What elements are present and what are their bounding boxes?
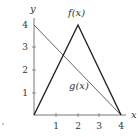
- y-tick-label: 4: [22, 20, 28, 30]
- f-label: f(x): [67, 7, 85, 18]
- y-tick-label: 3: [22, 42, 28, 52]
- x-axis-label: x: [131, 109, 137, 120]
- x-tick-label: 3: [96, 121, 102, 131]
- y-axis-label: y: [29, 3, 36, 14]
- x-tick-label: 1: [53, 121, 59, 131]
- x-tick-label: 4: [118, 121, 124, 131]
- x-tick-label: 2: [75, 121, 81, 131]
- g-label: g(x): [69, 80, 89, 91]
- g-line: [34, 25, 121, 115]
- chart: 1 2 3 4 1 2 3 4 x y f(x) g(x): [0, 0, 138, 137]
- marker-dot: [2, 123, 4, 125]
- y-tick-label: 1: [22, 88, 28, 98]
- y-tick-label: 2: [22, 65, 28, 75]
